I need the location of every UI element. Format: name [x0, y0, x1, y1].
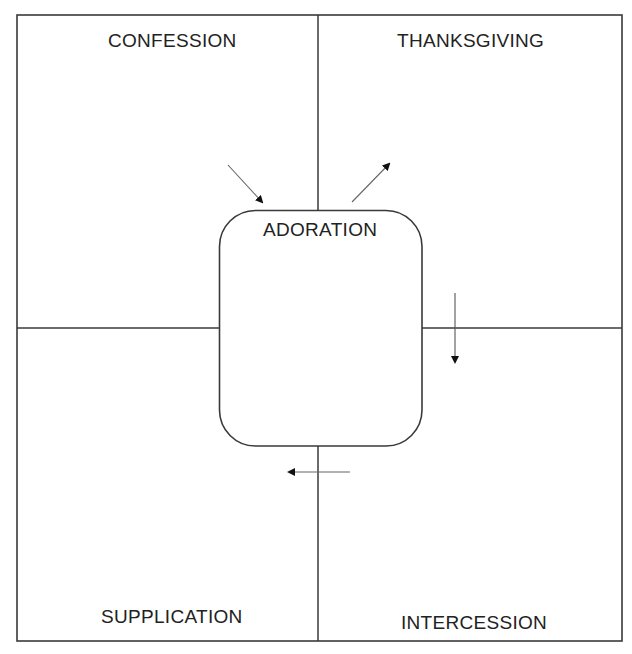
arrow-adoration-to-thanksgiving [352, 164, 389, 202]
quadrant-label-supplication: SUPPLICATION [101, 606, 243, 628]
center-label-adoration: ADORATION [263, 219, 377, 241]
quadrant-label-intercession: INTERCESSION [401, 612, 547, 634]
center-box [220, 211, 423, 447]
diagram-canvas [0, 0, 632, 654]
quadrant-label-thanksgiving: THANKSGIVING [397, 30, 544, 52]
quadrant-label-confession: CONFESSION [108, 30, 237, 52]
arrow-confession-to-adoration [228, 165, 262, 202]
